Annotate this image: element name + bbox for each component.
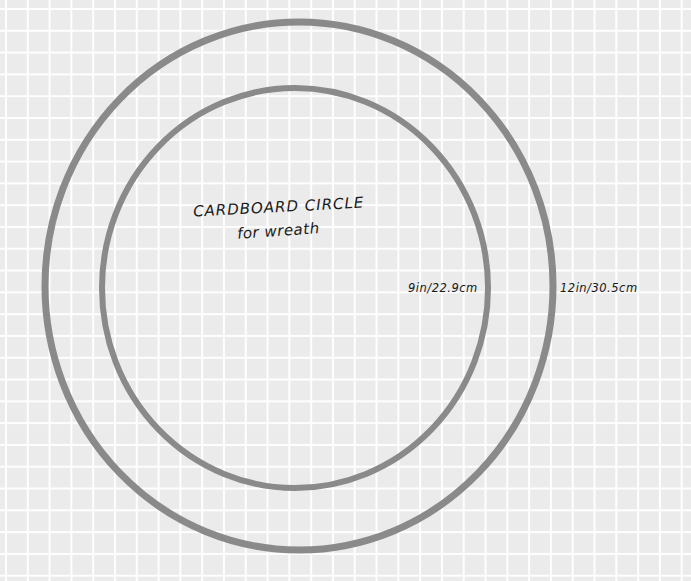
- inner-dimension-label: 9in/22.9cm: [408, 281, 478, 295]
- outer-dimension-label: 12in/30.5cm: [560, 281, 638, 295]
